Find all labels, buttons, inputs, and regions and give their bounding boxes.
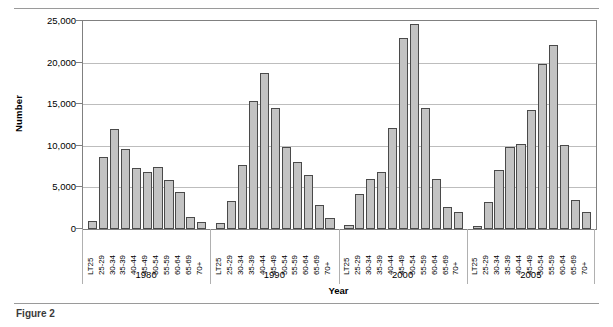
bar	[164, 180, 173, 229]
bar	[143, 172, 152, 229]
bar	[197, 222, 206, 229]
bar	[432, 179, 441, 229]
bar	[505, 147, 514, 229]
x-axis-group-label: 1990	[264, 269, 285, 280]
bar	[121, 149, 130, 229]
bar	[582, 212, 591, 229]
plot-area	[82, 20, 597, 230]
bar	[355, 194, 364, 229]
bars-layer	[83, 21, 596, 229]
bar	[304, 175, 313, 229]
y-axis-tick-label: 0	[12, 223, 76, 234]
bar	[410, 24, 419, 230]
bar	[560, 145, 569, 229]
bar	[538, 64, 547, 229]
y-axis-tick-label: 10,000	[12, 139, 76, 150]
bar	[516, 144, 525, 229]
bar	[494, 170, 503, 229]
figure-top-rule	[14, 8, 599, 9]
bar	[186, 217, 195, 229]
group-separator	[467, 229, 468, 284]
bar	[110, 129, 119, 229]
bar	[325, 218, 334, 229]
bar	[421, 108, 430, 229]
y-axis-tick-label: 15,000	[12, 98, 76, 109]
x-axis-group-band: 1980199020002005	[82, 229, 595, 284]
figure-caption: Figure 2	[16, 308, 55, 325]
bar	[238, 165, 247, 229]
bar	[132, 168, 141, 229]
bar	[527, 110, 536, 229]
bar	[227, 201, 236, 229]
group-separator	[210, 229, 211, 284]
bar	[175, 192, 184, 229]
group-separator	[339, 229, 340, 284]
bar	[366, 179, 375, 229]
bar	[484, 202, 493, 229]
bar	[549, 45, 558, 229]
group-separator	[82, 229, 83, 284]
bar	[260, 73, 269, 229]
y-axis-tick-labels: 05,00010,00015,00020,00025,000	[10, 20, 76, 228]
y-axis-tick-label: 20,000	[12, 56, 76, 67]
bar	[249, 101, 258, 229]
x-axis-group-label: 2005	[520, 269, 541, 280]
bar	[388, 128, 397, 229]
y-axis-tick-label: 5,000	[12, 181, 76, 192]
bar	[443, 207, 452, 229]
bar	[377, 172, 386, 229]
figure-bottom-rule	[14, 303, 599, 304]
group-separator	[594, 229, 595, 284]
x-axis-group-label: 2000	[392, 269, 413, 280]
bar	[271, 108, 280, 229]
bar	[399, 38, 408, 229]
bar	[88, 221, 97, 229]
bar	[315, 205, 324, 229]
y-axis-tick-label: 25,000	[12, 15, 76, 26]
x-axis-group-label: 1980	[136, 269, 157, 280]
bar	[571, 200, 580, 229]
bar	[454, 212, 463, 229]
bar	[153, 167, 162, 229]
figure-container: Number 05,00010,00015,00020,00025,000 LT…	[0, 0, 613, 327]
bar	[99, 157, 108, 229]
bar	[293, 162, 302, 229]
x-axis-title: Year	[82, 285, 595, 296]
bar	[282, 147, 291, 229]
